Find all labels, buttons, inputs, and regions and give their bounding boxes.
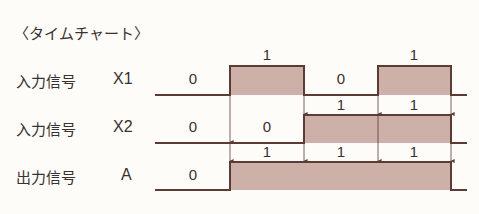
x1-high-fill-2 bbox=[378, 66, 451, 95]
a-level-3: 1 bbox=[410, 143, 418, 160]
x2-level-2: 1 bbox=[337, 96, 345, 113]
x1-level-2: 0 bbox=[337, 70, 345, 87]
x1-level-1: 1 bbox=[263, 46, 271, 63]
x1-high-fill-1 bbox=[230, 66, 304, 95]
x1-level-3: 1 bbox=[410, 46, 418, 63]
x2-high-fill bbox=[304, 115, 451, 143]
x2-level-1: 0 bbox=[263, 118, 271, 135]
timing-waveforms bbox=[0, 0, 479, 214]
a-level-1: 1 bbox=[263, 143, 271, 160]
a-high-fill bbox=[230, 162, 451, 190]
x2-level-3: 1 bbox=[410, 96, 418, 113]
x2-level-0: 0 bbox=[189, 118, 197, 135]
x1-level-0: 0 bbox=[189, 70, 197, 87]
a-level-2: 1 bbox=[337, 143, 345, 160]
a-level-0: 0 bbox=[189, 166, 197, 183]
